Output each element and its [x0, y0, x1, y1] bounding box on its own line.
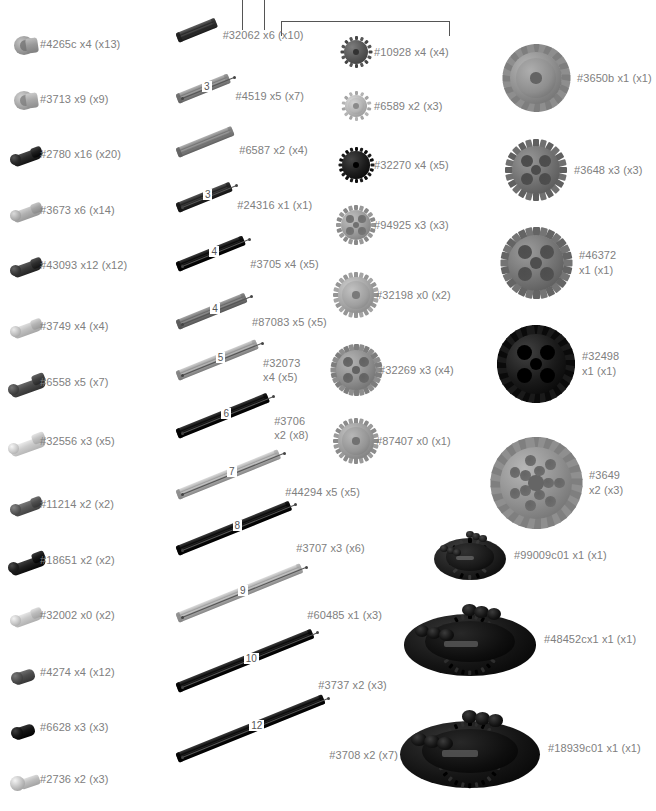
dimension-dot-start	[181, 374, 184, 377]
dimension-dot-start	[181, 549, 184, 552]
pin-end-cap	[10, 504, 21, 515]
dimension-dot-start	[181, 97, 184, 100]
gear-hole	[358, 227, 366, 235]
pin-end-cap	[10, 265, 21, 276]
gear-tooth	[366, 107, 371, 111]
gear-tooth	[354, 458, 358, 464]
pin-end-cap	[11, 672, 23, 684]
part-label: #3705 x4 (x5)	[250, 258, 319, 271]
part-label: #32198 x0 (x2)	[376, 289, 451, 302]
part-label: #3713 x9 (x9)	[40, 93, 109, 106]
gear-tooth	[533, 193, 539, 201]
gear-hub	[353, 49, 359, 55]
part-label: #4519 x5 (x7)	[236, 90, 305, 103]
part-label: #24316 x1 (x1)	[237, 199, 312, 212]
gear-art-p3648	[506, 140, 566, 200]
assembly-knob	[479, 535, 487, 542]
axle-dimension-p60485: 9	[182, 599, 324, 625]
pin-end-cap	[10, 154, 21, 165]
part-label-qty: x4 (x5)	[263, 371, 297, 384]
axle-dimension-p3707: 8	[182, 532, 312, 558]
dimension-value: 9	[238, 585, 248, 596]
gear-tooth	[368, 51, 372, 54]
gear-hole	[525, 455, 536, 466]
pin-end-cap	[11, 727, 23, 739]
part-label: #99009c01 x1 (x1)	[514, 549, 607, 562]
pin-end-cap	[10, 326, 21, 337]
dimension-value: 8	[233, 520, 243, 531]
dimension-value: 10	[244, 653, 259, 664]
part-label-qty: x2 (x3)	[589, 484, 623, 497]
gear-tooth	[355, 179, 358, 183]
assembly-slot-highlight	[444, 641, 478, 647]
gear-art-p32498	[498, 326, 574, 402]
part-label: #4274 x4 (x12)	[40, 666, 115, 679]
part-label: #32002 x0 (x2)	[40, 609, 115, 622]
dimension-value: 3	[203, 189, 213, 200]
gear-tooth	[355, 64, 358, 68]
part-label: #10928 x4 (x4)	[374, 46, 449, 59]
gear-hole	[518, 267, 532, 281]
part-label: #32556 x3 (x5)	[40, 435, 115, 448]
gear-art-p32270	[339, 148, 373, 182]
gear-tooth	[354, 312, 358, 318]
part-label: #3706	[274, 415, 305, 428]
part-label: #43093 x12 (x12)	[40, 259, 127, 272]
pin-end-cap	[8, 562, 19, 573]
part-label: #11214 x2 (x2)	[40, 498, 114, 511]
gear-tooth	[354, 240, 358, 245]
assembly-knob	[488, 714, 503, 727]
part-label: #6589 x2 (x3)	[374, 100, 443, 113]
part-label: #94925 x3 (x3)	[374, 219, 449, 232]
gear-hub	[352, 291, 359, 298]
dimension-value: 4	[209, 246, 219, 257]
assembly-slot-highlight	[456, 556, 475, 560]
gear-hole	[343, 373, 353, 383]
pin-end-cap	[10, 210, 21, 221]
gear-art-p32198	[334, 273, 378, 317]
pin-segment	[25, 37, 39, 54]
part-label: #87083 x5 (x5)	[252, 316, 327, 329]
gear-tooth	[338, 164, 342, 167]
gear-hub	[530, 257, 542, 269]
pin-segment	[25, 92, 39, 109]
part-label: #3648 x3 (x3)	[574, 164, 643, 177]
part-label: #32498	[582, 350, 619, 363]
gear-hole	[521, 173, 533, 185]
part-label: #3708 x2 (x7)	[329, 749, 398, 762]
dimension-value: 7	[227, 466, 237, 477]
gear-hole	[540, 245, 554, 259]
part-label: #6628 x3 (x3)	[40, 721, 109, 734]
part-label: #60485 x1 (x3)	[307, 609, 382, 622]
gear-hole	[510, 488, 521, 499]
dimension-value: 12	[249, 720, 264, 731]
dimension-value: 6	[221, 408, 231, 419]
part-label: #18651 x2 (x2)	[40, 554, 115, 567]
gear-hole	[346, 227, 354, 235]
gear-art-p32269	[331, 345, 381, 395]
part-label: #32270 x4 (x5)	[374, 159, 449, 172]
dimension-dot-end	[250, 295, 253, 298]
gear-hole	[346, 215, 354, 223]
gear-hub	[353, 103, 359, 109]
dimension-dot-end	[235, 184, 238, 187]
part-label: #3707 x3 (x6)	[296, 542, 365, 555]
gear-art-p10928	[341, 37, 371, 67]
assembly-slot-highlight	[442, 750, 478, 757]
dimension-dot-start	[181, 432, 184, 435]
leader-line-2	[264, 0, 265, 30]
part-label-qty: x1 (x1)	[582, 365, 616, 378]
gear-art-p3649	[491, 438, 581, 528]
assembly-art-p99009c01	[434, 525, 506, 585]
dimension-dot-start	[181, 493, 184, 496]
dimension-dot-start	[181, 265, 184, 268]
assembly-art-p48452cx1	[404, 595, 536, 683]
gear-art-p6589	[342, 92, 370, 120]
part-label: #18939c01 x1 (x1)	[548, 742, 641, 755]
dimension-dot-end	[283, 452, 286, 455]
gear-art-p46372	[501, 228, 571, 298]
gear-art-p3650b	[503, 45, 569, 111]
part-label: #3737 x2 (x3)	[318, 679, 387, 692]
parts-inventory-sheet: #4265c x4 (x13)#3713 x9 (x9)#2780 x16 (x…	[0, 0, 656, 811]
axle-dimension-p3737: 10	[182, 669, 336, 695]
